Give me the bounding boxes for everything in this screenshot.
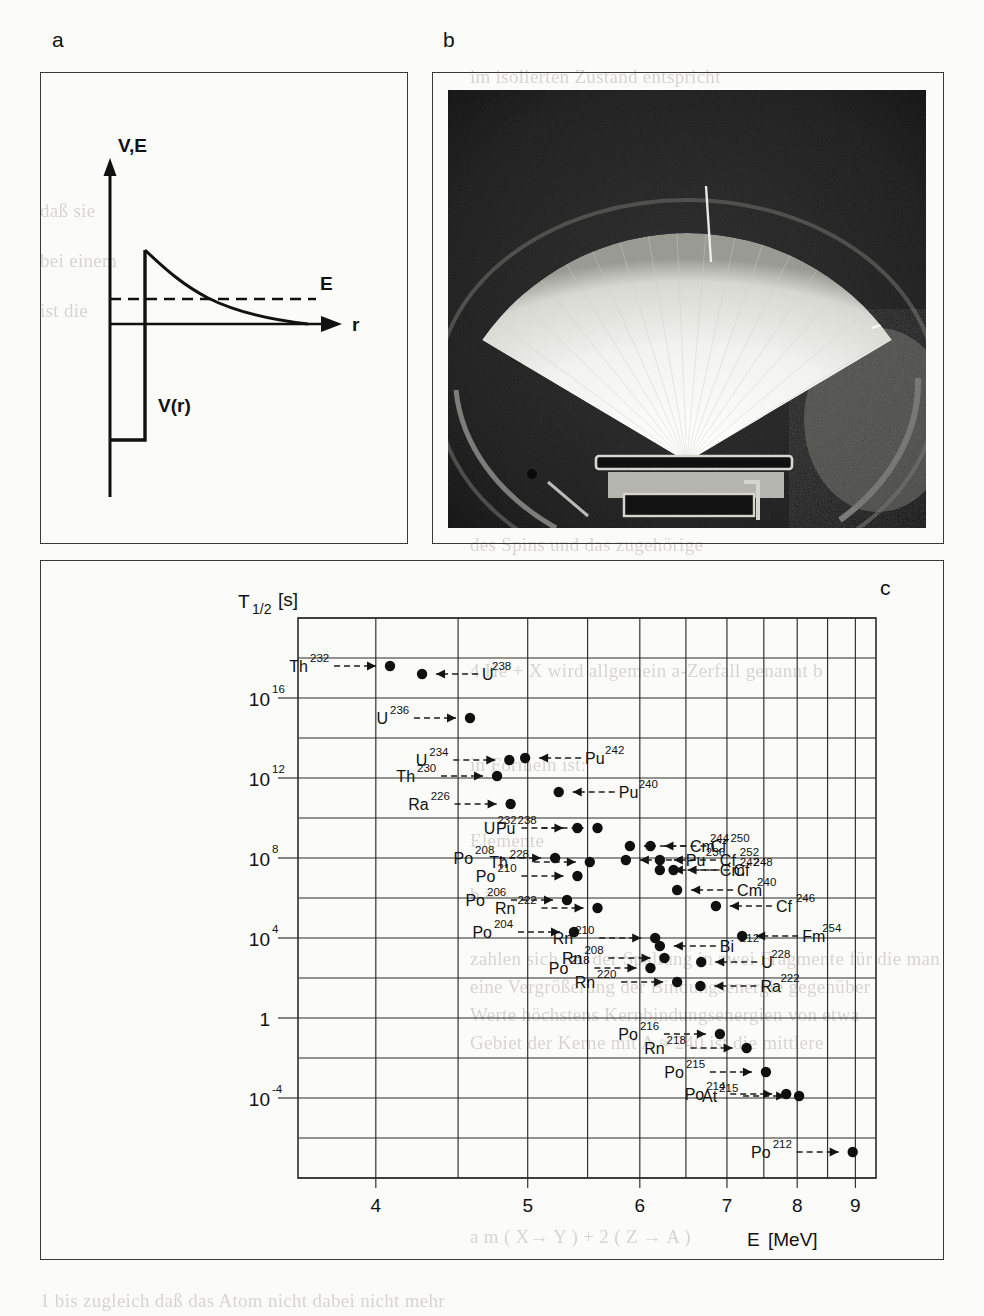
panel-b-letter: b <box>443 28 455 52</box>
nuclide-symbol: Th <box>289 658 308 675</box>
nuclide-mass-number: 212 <box>740 932 759 944</box>
y-tick-exponent: 4 <box>272 923 279 935</box>
nuclide-label: Th232 <box>289 652 329 675</box>
panel-b-cloud-chamber-photo <box>448 90 926 528</box>
leader-arrow <box>488 800 497 809</box>
x-tick-label: 7 <box>722 1195 733 1216</box>
panel-a-y-axis-label: V,E <box>118 135 147 156</box>
leader-arrow <box>724 1044 733 1053</box>
nuclide-symbol: U <box>484 820 496 837</box>
leader-arrow <box>697 1030 706 1039</box>
nuclide-label: Rn220 <box>575 968 617 991</box>
leader-arrow <box>575 904 584 913</box>
panel-c-geiger-nuttall-chart: Th232U238U236U234Pu242Th230Ra226Pu240U23… <box>40 560 944 1260</box>
panel-b-photo-content <box>448 90 926 528</box>
nuclide-symbol: Po <box>472 924 492 941</box>
nuclide-label: Bi212 <box>720 932 759 955</box>
y-tick-label: 10 <box>249 769 270 790</box>
svg-text:[s]: [s] <box>278 589 298 610</box>
source-holder <box>596 456 792 469</box>
data-point <box>711 901 721 911</box>
data-point <box>550 853 560 863</box>
chart-leader-lines <box>334 662 839 1157</box>
leader-arrow <box>436 670 445 679</box>
nuclide-symbol: Po <box>618 1026 638 1043</box>
x-tick-label: 4 <box>371 1195 382 1216</box>
nuclide-symbol: Th <box>396 768 415 785</box>
nuclide-label: Cm240 <box>737 876 776 899</box>
nuclide-mass-number: 228 <box>771 948 790 960</box>
nuclide-label: Pu240 <box>619 778 658 801</box>
data-point <box>741 1043 751 1053</box>
data-point <box>592 903 602 913</box>
nuclide-symbol: Po <box>454 850 474 867</box>
nuclide-label: U236 <box>376 704 409 727</box>
nuclide-symbol: Rn <box>644 1040 664 1057</box>
panel-a-v-axis-arrow <box>104 158 117 176</box>
panel-a-potential-diagram: V,E r E V(r) <box>40 72 408 544</box>
data-point <box>696 957 706 967</box>
leader-arrow <box>486 756 495 765</box>
x-tick-label: 8 <box>792 1195 803 1216</box>
leader-arrow <box>664 842 673 851</box>
leader-arrow <box>567 858 576 867</box>
nuclide-mass-number: 206 <box>487 886 506 898</box>
nuclide-mass-number: 208 <box>584 944 603 956</box>
nuclide-mass-number: 238 <box>492 660 511 672</box>
nuclide-mass-number: 240 <box>757 876 776 888</box>
nuclide-symbol: Ra <box>760 978 781 995</box>
nuclide-symbol: Rn <box>575 974 595 991</box>
nuclide-mass-number: 246 <box>796 892 815 904</box>
data-point <box>645 841 655 851</box>
nuclide-mass-number: 215 <box>686 1058 705 1070</box>
data-point <box>592 823 602 833</box>
data-point <box>655 855 665 865</box>
data-point <box>554 787 564 797</box>
data-point <box>645 963 655 973</box>
nuclide-label: U228 <box>761 948 790 971</box>
svg-text:T: T <box>238 591 250 612</box>
nuclide-label: Pu242 <box>585 744 624 767</box>
data-point <box>847 1147 857 1157</box>
data-point <box>562 895 572 905</box>
data-point <box>465 713 475 723</box>
nuclide-symbol: Pu <box>585 750 605 767</box>
data-point <box>695 981 705 991</box>
panel-a-energy-label: E <box>320 273 333 294</box>
nuclide-symbol: Po <box>751 1144 771 1161</box>
data-point <box>492 771 502 781</box>
leader-arrow <box>573 788 582 797</box>
nuclide-symbol: Th <box>489 854 508 871</box>
nuclide-mass-number: 238 <box>518 814 537 826</box>
nuclide-label: U238 <box>482 660 511 683</box>
y-tick-label: 1 <box>259 1009 270 1030</box>
leader-arrow <box>691 886 700 895</box>
data-point <box>672 977 682 987</box>
nuclide-mass-number: 204 <box>494 918 514 930</box>
nuclide-mass-number: 240 <box>639 778 658 790</box>
x-tick-label: 9 <box>850 1195 861 1216</box>
leader-arrow <box>654 978 663 987</box>
nuclide-symbol: U <box>376 710 388 727</box>
nuclide-mass-number: 230 <box>417 762 436 774</box>
data-point <box>385 661 395 671</box>
nuclide-mass-number: 228 <box>510 848 529 860</box>
y-tick-label: 10 <box>249 689 270 710</box>
data-point <box>781 1089 791 1099</box>
leader-arrow <box>641 954 650 963</box>
nuclide-label: Fm254 <box>802 922 842 945</box>
nuclide-mass-number: 218 <box>667 1034 686 1046</box>
nuclide-mass-number: 210 <box>575 924 594 936</box>
leader-arrow <box>539 754 548 763</box>
svg-text:1/2: 1/2 <box>252 601 272 617</box>
data-point <box>655 941 665 951</box>
nuclide-symbol: Rn <box>553 930 573 947</box>
data-point <box>655 865 665 875</box>
nuclide-symbol: Po <box>465 892 485 909</box>
data-point <box>520 753 530 763</box>
leader-arrow <box>714 982 723 991</box>
nuclide-mass-number: 236 <box>706 846 725 858</box>
panel-a-x-axis-label: r <box>352 314 360 335</box>
leader-arrow <box>367 662 376 671</box>
panel-a-coulomb-tail <box>145 250 308 324</box>
